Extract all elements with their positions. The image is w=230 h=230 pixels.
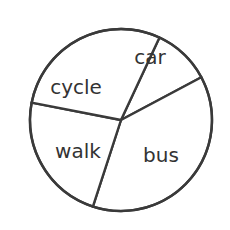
- pie-slice-label-cycle: cycle: [50, 75, 102, 99]
- pie-slice-label-walk: walk: [55, 139, 101, 163]
- pie-chart-figure: school travel carbuswalkcycle: [0, 0, 230, 230]
- pie-slice-label-car: car: [134, 45, 166, 69]
- pie-slice-label-bus: bus: [143, 143, 179, 167]
- pie-svg: carbuswalkcycle: [0, 0, 230, 230]
